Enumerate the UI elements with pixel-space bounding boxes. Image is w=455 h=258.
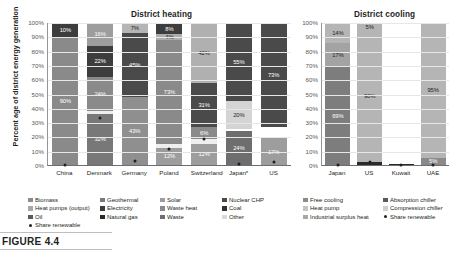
segment-value-label: 45% — [129, 62, 140, 68]
legend-dot-icon — [29, 224, 32, 227]
share-renewable-marker — [432, 164, 435, 167]
legend-item[interactable]: Industrial surplus heat — [303, 214, 383, 220]
chart-title-district-heating: District heating — [0, 10, 295, 19]
x-axis-labels-heating: ChinaDenmarkGermanyPolandSwitzerlandJapa… — [47, 169, 291, 183]
bar-segment: 42% — [191, 23, 217, 83]
segment-value-label: 69% — [332, 113, 343, 119]
gridline — [48, 66, 291, 67]
legend-column: GeothermalElectricityNatural gas — [100, 197, 160, 228]
y-tick-heating-20pct: 20% — [32, 134, 44, 140]
gridline — [322, 52, 449, 53]
bar-segment: 17% — [325, 43, 350, 67]
legend-item-label: Heat pump — [310, 205, 339, 211]
y-tick-cooling-80pct: 80% — [306, 49, 318, 55]
bar-segment: 5% — [357, 23, 382, 30]
y-tick-cooling-90pct: 90% — [306, 34, 318, 40]
legend-swatch-icon — [383, 198, 388, 203]
legend-item[interactable]: Free cooling — [303, 197, 383, 203]
legend-column: BiomassHeat pumps (output)OilShare renew… — [28, 197, 100, 228]
legend-item[interactable]: Waste heat — [160, 205, 222, 211]
gridline — [48, 80, 291, 81]
legend-item[interactable]: Nuclear CHP — [222, 197, 284, 203]
legend-item-label: Compression chiller — [390, 205, 443, 211]
legend-swatch-icon — [303, 215, 308, 220]
legend-item[interactable]: Geothermal — [100, 197, 160, 203]
legend-item[interactable]: Absorption chiller — [383, 197, 455, 203]
segment-value-label: 55% — [233, 59, 244, 65]
legend-swatch-icon — [100, 206, 105, 211]
segment-value-label: 95% — [427, 87, 438, 93]
x-axis-label: Germany — [121, 169, 147, 183]
y-tick-heating-80pct: 80% — [32, 49, 44, 55]
legend-item[interactable]: Oil — [28, 214, 100, 220]
share-renewable-marker — [368, 161, 371, 164]
bar-segment: 14% — [325, 23, 350, 43]
legend-item-label: Free cooling — [310, 197, 343, 203]
legend-item[interactable]: Coal — [222, 205, 284, 211]
gridline — [48, 52, 291, 53]
legend-swatch-icon — [28, 206, 33, 211]
segment-value-label: 7% — [131, 25, 139, 31]
share-renewable-marker — [336, 164, 339, 167]
legend-item-label: Industrial surplus heat — [310, 214, 369, 220]
legend-swatch-icon — [222, 198, 227, 203]
chart-title-district-cooling: District cooling — [296, 10, 455, 19]
segment-value-label: 5% — [366, 24, 374, 30]
gridline — [322, 37, 449, 38]
bar-segment: 43% — [122, 97, 148, 165]
segment-value-label: 20% — [233, 112, 244, 118]
bar-segment: 31% — [191, 83, 217, 127]
legend-column: SolarWaste heatWaste — [160, 197, 222, 228]
y-tick-heating-90pct: 90% — [32, 34, 44, 40]
legend-swatch-icon — [160, 198, 165, 203]
bar-segment: 22% — [87, 46, 113, 77]
legend-swatch-icon — [222, 206, 227, 211]
legend-item[interactable]: Heat pump — [303, 205, 383, 211]
legend-item-label: Share renewable — [390, 214, 435, 220]
legend-item[interactable]: Waste — [160, 214, 222, 220]
legend-swatch-icon — [303, 198, 308, 203]
y-tick-heating-70pct: 70% — [32, 63, 44, 69]
bar-segment: 90% — [357, 30, 382, 162]
legend-swatch-icon — [160, 215, 165, 220]
y-tick-heating-100pct: 100% — [28, 20, 44, 26]
share-renewable-marker — [272, 161, 275, 164]
legend-dot-icon — [384, 215, 387, 218]
bar-segment: 32% — [87, 114, 113, 165]
segment-value-label: 10% — [60, 27, 71, 33]
legend-item[interactable]: Compression chiller — [383, 205, 455, 211]
legend-item[interactable]: Electricity — [100, 205, 160, 211]
legend-item[interactable]: Heat pumps (output) — [28, 205, 100, 211]
bar-segment: 69% — [325, 67, 350, 165]
legend-item[interactable]: Share renewable — [28, 222, 100, 228]
legend-item[interactable]: Solar — [160, 197, 222, 203]
bar-segment: 24% — [226, 131, 252, 165]
plot-area-heating: 0%10%20%30%40%50%60%70%80%90%100% 10%90%… — [0, 23, 295, 181]
segment-value-label: 73% — [268, 72, 279, 78]
x-axis-label: Denmark — [86, 169, 112, 183]
legend-swatch-icon — [222, 215, 227, 220]
x-axis-label: UAE — [421, 169, 446, 183]
x-axis-label: Japan* — [226, 169, 252, 183]
gridline — [322, 66, 449, 67]
legend-item[interactable]: Natural gas — [100, 214, 160, 220]
bar-segment: 90% — [52, 37, 78, 165]
gridline — [322, 95, 449, 96]
bar-segment: 7% — [122, 23, 148, 33]
share-renewable-marker — [203, 138, 206, 141]
segment-value-label: 12% — [164, 153, 175, 159]
legend-item[interactable]: Share renewable — [383, 214, 455, 220]
share-renewable-marker — [64, 164, 67, 167]
legend-item[interactable]: Other — [222, 214, 284, 220]
y-tick-heating-30pct: 30% — [32, 120, 44, 126]
gridline — [48, 95, 291, 96]
legend-item[interactable]: Biomass — [28, 197, 100, 203]
gridline — [322, 80, 449, 81]
y-tick-heating-10pct: 10% — [32, 149, 44, 155]
plot-canvas-cooling: 14%17%69%5%90%95%5% — [321, 23, 449, 166]
segment-value-label: 14% — [332, 30, 343, 36]
legend-item-label: Oil — [35, 214, 42, 220]
bar-segment: 73% — [261, 23, 287, 127]
y-tick-heating-0pct: 0% — [35, 163, 44, 169]
legend-item-label: Waste — [167, 214, 184, 220]
